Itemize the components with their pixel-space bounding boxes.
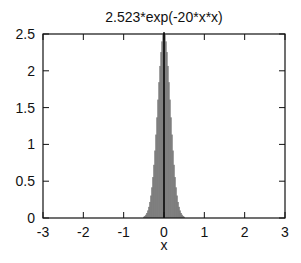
chart-title: 2.523*exp(-20*x*x)	[105, 9, 223, 25]
x-tick-label: -1	[117, 224, 130, 240]
y-tick-labels: 00.511.522.5	[16, 26, 36, 226]
y-tick-label: 1.5	[16, 100, 36, 116]
y-tick-label: 0	[27, 210, 35, 226]
x-tick-label: -3	[37, 224, 50, 240]
x-tick-label: 3	[281, 224, 289, 240]
x-axis-label: x	[161, 237, 168, 253]
impulse-bars	[144, 32, 184, 218]
y-tick-label: 0.5	[16, 173, 36, 189]
x-tick-label: 2	[241, 224, 249, 240]
chart: 2.523*exp(-20*x*x) -3-2-10123 00.511.522…	[0, 0, 301, 263]
y-tick-label: 1	[27, 136, 35, 152]
y-tick-label: 2.5	[16, 26, 36, 42]
x-tick-label: 1	[200, 224, 208, 240]
x-tick-label: -2	[77, 224, 90, 240]
y-tick-label: 2	[27, 63, 35, 79]
